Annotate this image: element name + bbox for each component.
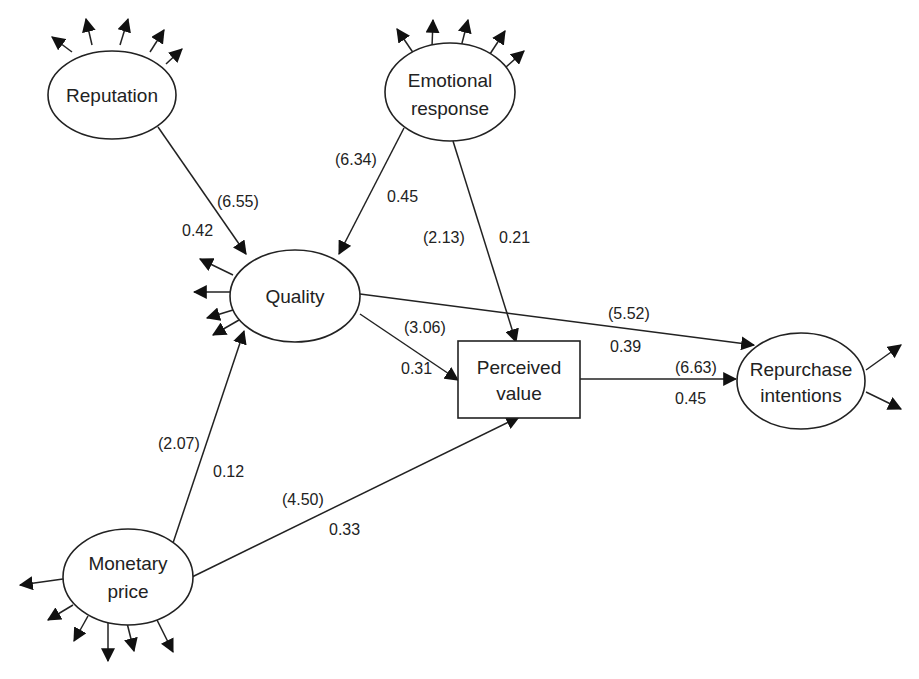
coef-quality-perceived-value: 0.31 [401,360,432,377]
coef-reputation-quality: 0.42 [182,222,213,239]
t-value-monetary-quality: (2.07) [158,435,200,452]
node-label-line1: Perceived [477,357,562,378]
t-value-quality-repurchase: (5.52) [608,305,650,322]
node-label: Reputation [66,85,158,106]
node-label-line2: response [411,98,489,119]
coef-monetary-quality: 0.12 [213,463,244,480]
node-emotional-response: Emotional response [385,43,515,141]
t-value-reputation-quality: (6.55) [217,193,259,210]
node-repurchase-intentions: Repurchase intentions [737,333,865,429]
node-label-line1: Repurchase [750,359,852,380]
t-value-emotional-quality: (6.34) [335,151,377,168]
node-label-line2: price [107,581,148,602]
coef-perceived-value-repurchase: 0.45 [675,390,706,407]
coef-emotional-quality: 0.45 [387,188,418,205]
node-label-line1: Monetary [88,553,168,574]
t-value-perceived-value-repurchase: (6.63) [675,359,717,376]
coef-emotional-perceived-value: 0.21 [499,229,530,246]
coef-monetary-perceived-value: 0.33 [329,521,360,538]
node-perceived-value: Perceived value [458,341,580,418]
repurchase-indicator-arrows [866,345,901,409]
node-monetary-price: Monetary price [63,529,193,625]
node-quality: Quality [230,250,360,342]
node-label-line2: intentions [760,385,841,406]
t-value-emotional-perceived-value: (2.13) [423,229,465,246]
node-label: Quality [265,286,325,307]
node-label-line2: value [496,383,541,404]
structural-model-diagram: Reputation Emotional response Quality Pe… [0,0,919,679]
t-value-quality-perceived-value: (3.06) [404,319,446,336]
t-value-monetary-perceived-value: (4.50) [282,491,324,508]
path-monetary-perceived-value [192,417,519,577]
coef-quality-repurchase: 0.39 [610,338,641,355]
node-label-line1: Emotional [408,70,493,91]
node-reputation: Reputation [48,51,176,139]
